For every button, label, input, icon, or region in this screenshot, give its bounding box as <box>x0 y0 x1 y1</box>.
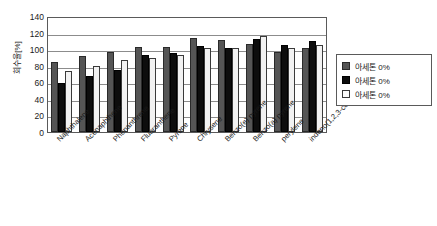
bar <box>204 48 211 133</box>
y-tick-20: 20 <box>18 112 44 120</box>
bar <box>316 45 323 132</box>
legend-item: 아세톤 0% <box>342 59 427 73</box>
bar <box>51 62 58 132</box>
bar <box>58 83 65 132</box>
chart-legend: 아세톤 0%아세톤 0%아세톤 0% <box>336 54 432 106</box>
bar <box>114 70 121 132</box>
bar <box>170 53 177 132</box>
y-tick-120: 120 <box>18 30 44 38</box>
bar-group <box>187 18 215 132</box>
bar-chart: 회수율[%] 140120100806040200 NaphthaleneAce… <box>0 0 437 226</box>
legend-item: 아세톤 0% <box>342 87 427 101</box>
y-tick-140: 140 <box>18 13 44 21</box>
bar <box>309 41 316 132</box>
y-tick-80: 80 <box>18 63 44 71</box>
legend-label: 아세톤 0% <box>355 75 390 86</box>
legend-item: 아세톤 0% <box>342 73 427 87</box>
y-tick-0: 0 <box>18 129 44 137</box>
y-tick-60: 60 <box>18 79 44 87</box>
legend-swatch-icon <box>342 62 350 70</box>
bar <box>232 48 239 132</box>
x-axis-tick-labels: NaphthaleneAcenaphthenePhenanthreneFluor… <box>47 133 327 223</box>
bar <box>288 48 295 133</box>
bar <box>197 46 204 132</box>
legend-label: 아세톤 0% <box>355 61 390 72</box>
bar <box>225 48 232 132</box>
bar <box>86 76 93 132</box>
legend-swatch-icon <box>342 76 350 84</box>
bar <box>260 36 267 132</box>
legend-label: 아세톤 0% <box>355 89 390 100</box>
bar-group <box>298 18 326 132</box>
y-tick-40: 40 <box>18 96 44 104</box>
bar <box>281 45 288 132</box>
bar <box>142 55 149 132</box>
y-tick-100: 100 <box>18 46 44 54</box>
bar-group <box>48 18 76 132</box>
bar <box>190 38 197 132</box>
y-axis-tick-labels: 140120100806040200 <box>18 17 44 133</box>
legend-swatch-icon <box>342 90 350 98</box>
